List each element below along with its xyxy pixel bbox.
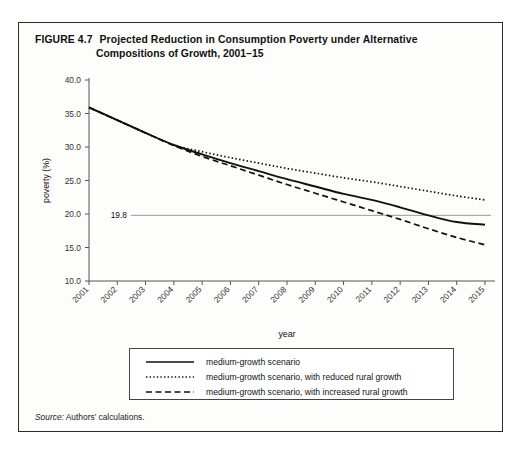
legend-label: medium-growth scenario, with increased r… xyxy=(206,387,408,397)
y-tick-label: 20.0 xyxy=(65,209,82,219)
figure-frame: FIGURE 4.7Projected Reduction in Consump… xyxy=(18,22,503,432)
x-tick-label: 2002 xyxy=(98,284,118,304)
x-tick-label: 2012 xyxy=(381,284,401,304)
series-line xyxy=(89,107,485,199)
legend-key-dashed-icon xyxy=(144,386,196,398)
y-tick-label: 35.0 xyxy=(65,109,82,119)
y-tick-label: 10.0 xyxy=(65,276,82,286)
x-axis-ticks: 2001200220032004200520062007200820092010… xyxy=(70,281,486,305)
legend-label: medium-growth scenario, with reduced rur… xyxy=(206,372,401,382)
legend-item: medium-growth scenario, with increased r… xyxy=(144,385,453,399)
x-tick-label: 2015 xyxy=(466,284,486,304)
x-tick-label: 2009 xyxy=(296,284,316,304)
x-tick-label: 2011 xyxy=(353,284,373,304)
x-tick-label: 2007 xyxy=(240,284,260,304)
legend-item: medium-growth scenario, with reduced rur… xyxy=(144,370,453,384)
series-group xyxy=(89,107,485,244)
x-tick-label: 2005 xyxy=(183,284,203,304)
reference-line-group: 19.8 xyxy=(111,210,491,220)
x-tick-label: 2003 xyxy=(127,284,147,304)
legend-key-solid-icon xyxy=(144,356,196,368)
series-line xyxy=(89,107,485,244)
legend-label: medium-growth scenario xyxy=(206,357,300,367)
y-tick-label: 15.0 xyxy=(65,243,82,253)
x-tick-label: 2014 xyxy=(438,284,458,304)
y-tick-label: 30.0 xyxy=(65,142,82,152)
legend-key-dotted-icon xyxy=(144,371,196,383)
y-axis-title: poverty (%) xyxy=(41,158,51,203)
x-tick-label: 2006 xyxy=(212,284,232,304)
x-tick-label: 2013 xyxy=(410,284,430,304)
x-tick-label: 2008 xyxy=(268,284,288,304)
series-line xyxy=(89,107,485,224)
reference-line-label: 19.8 xyxy=(111,210,128,220)
x-tick-label: 2010 xyxy=(325,284,345,304)
x-axis-title: year xyxy=(278,329,295,339)
chart-legend: medium-growth scenario medium-growth sce… xyxy=(129,348,454,400)
legend-item: medium-growth scenario xyxy=(144,355,453,369)
x-tick-label: 2001 xyxy=(70,284,90,304)
x-tick-label: 2004 xyxy=(155,284,175,304)
y-tick-label: 40.0 xyxy=(65,75,82,85)
source-note: Source: Authors’ calculations. xyxy=(35,412,145,422)
y-tick-label: 25.0 xyxy=(65,176,82,186)
y-axis-ticks: 10.015.020.025.030.035.040.0 xyxy=(65,75,89,286)
source-label: Source: xyxy=(35,412,64,422)
source-text: Authors’ calculations. xyxy=(64,412,145,422)
